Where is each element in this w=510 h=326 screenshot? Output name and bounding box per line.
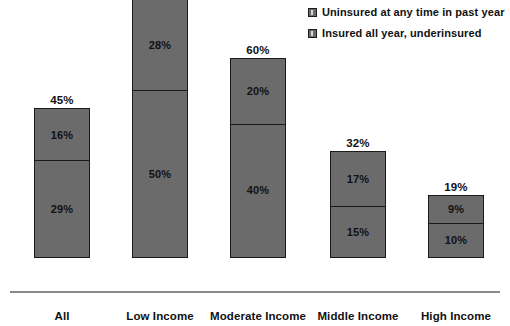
bar-group-middle-income[interactable]: 32% 17% 15% bbox=[330, 151, 386, 258]
bar-segment-label-underinsured-middle-income: 15% bbox=[347, 226, 369, 238]
bar-segment-label-uninsured-moderate-income: 20% bbox=[247, 85, 269, 97]
bar-segment-uninsured-all[interactable]: 16% bbox=[35, 109, 89, 161]
bar-segment-underinsured-high-income[interactable]: 10% bbox=[429, 224, 483, 256]
bar-segment-label-underinsured-high-income: 10% bbox=[445, 234, 467, 246]
bar-segment-uninsured-middle-income[interactable]: 17% bbox=[331, 152, 385, 207]
bar-segment-uninsured-high-income[interactable]: 9% bbox=[429, 196, 483, 225]
bar-segment-label-uninsured-all: 16% bbox=[51, 129, 73, 141]
bar-stack-middle-income[interactable]: 17% 15% bbox=[330, 151, 386, 258]
bar-segment-underinsured-moderate-income[interactable]: 40% bbox=[231, 125, 285, 256]
bar-segment-label-underinsured-moderate-income: 40% bbox=[247, 184, 269, 196]
bar-stack-all[interactable]: 16% 29% bbox=[34, 108, 90, 258]
bar-group-all[interactable]: 45% 16% 29% bbox=[34, 108, 90, 258]
bar-stack-moderate-income[interactable]: 20% 40% bbox=[230, 58, 286, 258]
bar-stack-high-income[interactable]: 9% 10% bbox=[428, 195, 484, 258]
bar-segment-underinsured-middle-income[interactable]: 15% bbox=[331, 207, 385, 256]
bar-total-label-moderate-income: 60% bbox=[230, 44, 286, 56]
bar-segment-label-underinsured-low-income: 50% bbox=[149, 168, 171, 180]
bar-segment-label-uninsured-low-income: 28% bbox=[149, 39, 171, 51]
bar-segment-uninsured-moderate-income[interactable]: 20% bbox=[231, 59, 285, 125]
x-axis-baseline bbox=[10, 291, 500, 293]
bar-segment-label-uninsured-high-income: 9% bbox=[448, 203, 464, 215]
bar-segment-underinsured-low-income[interactable]: 50% bbox=[133, 91, 187, 256]
bar-stack-low-income[interactable]: 28% 50% bbox=[132, 0, 188, 258]
bar-segment-label-underinsured-all: 29% bbox=[51, 203, 73, 215]
bar-total-label-all: 45% bbox=[34, 94, 90, 106]
bar-total-label-high-income: 19% bbox=[428, 181, 484, 193]
bar-segment-uninsured-low-income[interactable]: 28% bbox=[133, 0, 187, 91]
bar-group-low-income[interactable]: 78% 28% 50% bbox=[132, 0, 188, 258]
bar-segment-underinsured-all[interactable]: 29% bbox=[35, 161, 89, 256]
bar-group-moderate-income[interactable]: 60% 20% 40% bbox=[230, 58, 286, 258]
bar-segment-label-uninsured-middle-income: 17% bbox=[347, 173, 369, 185]
bar-group-high-income[interactable]: 19% 9% 10% bbox=[428, 195, 484, 258]
plot-area: 45% 16% 29% 78% 28% 50% bbox=[0, 0, 510, 292]
x-axis-label-high-income: High Income bbox=[396, 310, 510, 322]
stacked-bar-chart: Uninsured at any time in past year Insur… bbox=[0, 0, 510, 326]
bar-total-label-middle-income: 32% bbox=[330, 137, 386, 149]
